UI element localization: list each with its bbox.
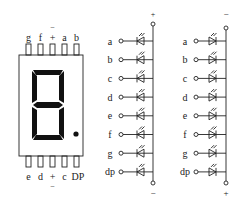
anode-label-dp: dp: [105, 166, 115, 177]
segment-g: [33, 102, 63, 108]
cathode-label-f: f: [183, 129, 187, 140]
led-icon: [137, 145, 145, 157]
common-anode-circuit: + − abcdefgdp: [105, 10, 156, 198]
anode-row-c: c: [108, 70, 153, 84]
anode-label-c: c: [108, 73, 113, 84]
top-pin-labels: g f + − a b: [26, 23, 79, 43]
cathode-label-g: g: [183, 148, 188, 159]
anode-top-terminal-label: +: [151, 10, 156, 19]
anode-row-d: d: [108, 89, 154, 103]
seven-segment-diagram: g f + − a b: [0, 0, 242, 207]
pin-label-e: e: [26, 171, 31, 182]
segment-b: [59, 71, 64, 103]
cathode-label-b: b: [183, 54, 188, 65]
cathode-row-a: a: [183, 33, 226, 47]
cathode-bottom-terminal-label: +: [223, 188, 228, 198]
cathode-label-e: e: [183, 110, 188, 121]
anode-bottom-terminal-label: −: [150, 188, 155, 198]
cathode-bottom-terminal: [224, 181, 228, 185]
led-icon: [137, 70, 145, 82]
bottom-pins: [26, 156, 79, 167]
led-icon: [137, 108, 145, 120]
anode-label-f: f: [108, 129, 112, 140]
anode-label-b: b: [108, 54, 113, 65]
cathode-row-g: g: [183, 145, 227, 159]
anode-terminal-g: [119, 151, 123, 155]
top-pins: [26, 44, 79, 55]
cathode-label-dp: dp: [180, 166, 190, 177]
cathode-row-b: b: [183, 52, 227, 65]
anode-row-b: b: [108, 52, 154, 65]
cathode-label-a: a: [183, 36, 188, 47]
cathode-terminal-a: [194, 39, 198, 43]
cathode-row-d: d: [183, 89, 227, 103]
anode-bottom-terminal: [151, 181, 155, 185]
cathode-terminal-e: [194, 114, 198, 118]
led-icon: [137, 52, 145, 64]
pin-label-f: f: [39, 32, 43, 43]
pin-label-dp: DP: [72, 171, 85, 182]
cathode-terminal-c: [194, 76, 198, 80]
cathode-top-terminal-label: −: [223, 9, 228, 19]
anode-row-f: f: [108, 127, 153, 141]
segment-f: [32, 71, 37, 103]
segment-e: [32, 107, 37, 139]
anode-terminal-e: [119, 114, 123, 118]
cathode-row-c: c: [183, 70, 226, 84]
pin-label-common-bottom: +: [50, 171, 56, 182]
pin-label-a: a: [62, 32, 67, 43]
anode-label-a: a: [108, 36, 113, 47]
pin-overbar-minus: −: [50, 23, 55, 32]
cathode-row-e: e: [183, 108, 226, 122]
segment-dp: [73, 131, 78, 136]
led-icon: [209, 108, 217, 120]
display-package: g f + − a b: [19, 23, 85, 191]
anode-row-a: a: [108, 33, 153, 47]
cathode-terminal-dp: [194, 170, 198, 174]
cathode-row-dp: dp: [180, 164, 226, 178]
anode-label-e: e: [108, 110, 113, 121]
cathode-label-d: d: [183, 92, 188, 103]
anode-row-dp: dp: [105, 164, 153, 178]
segment-d: [33, 135, 63, 140]
anode-terminal-a: [119, 39, 123, 43]
cathode-terminal-d: [194, 95, 198, 99]
led-icon: [137, 127, 145, 139]
digit-segments: [32, 70, 79, 140]
anode-terminal-c: [119, 76, 123, 80]
anode-terminal-dp: [119, 170, 123, 174]
pin-label-g: g: [26, 32, 31, 43]
anode-terminal-d: [119, 95, 123, 99]
anode-row-e: e: [108, 108, 153, 122]
anode-row-g: g: [108, 145, 154, 159]
anode-top-terminal: [151, 22, 155, 26]
led-icon: [209, 89, 217, 101]
common-cathode-circuit: − + abcdefgdp: [180, 9, 229, 198]
cathode-terminal-f: [194, 133, 198, 137]
anode-terminal-b: [119, 58, 123, 62]
cathode-top-terminal: [224, 26, 228, 30]
cathode-label-c: c: [183, 73, 188, 84]
segment-a: [33, 70, 63, 75]
led-icon: [209, 127, 217, 139]
pin-label-common-top: +: [50, 32, 56, 43]
led-icon: [137, 89, 145, 101]
pin-label-c: c: [62, 171, 67, 182]
led-icon: [137, 33, 145, 45]
led-icon: [209, 145, 217, 157]
anode-terminal-f: [119, 133, 123, 137]
led-icon: [209, 164, 217, 176]
bottom-pin-labels: e d + − c DP: [26, 171, 85, 191]
anode-label-g: g: [108, 148, 113, 159]
cathode-terminal-g: [194, 151, 198, 155]
cathode-row-f: f: [183, 127, 226, 141]
cathode-terminal-b: [194, 58, 198, 62]
pin-underbar-minus: −: [50, 182, 55, 191]
pin-label-d: d: [38, 171, 43, 182]
pin-label-b: b: [74, 32, 79, 43]
led-icon: [137, 164, 145, 176]
led-icon: [209, 70, 217, 82]
segment-c: [59, 107, 64, 139]
anode-label-d: d: [108, 92, 113, 103]
led-icon: [209, 33, 217, 45]
